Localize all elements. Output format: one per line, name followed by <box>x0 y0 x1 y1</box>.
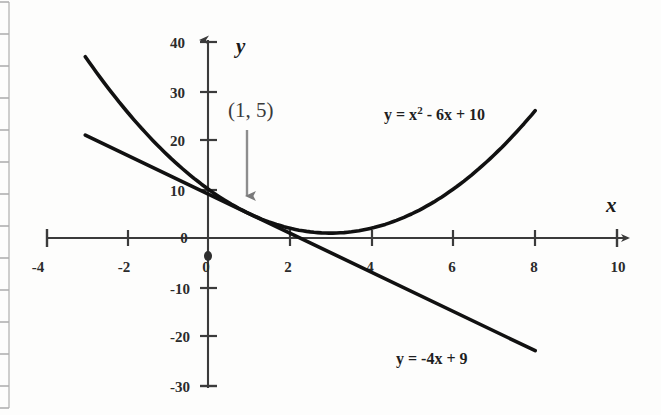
parabola <box>85 57 535 233</box>
parabola-curve-drawn <box>85 59 208 254</box>
line-equation-label: y = -4x + 9 <box>396 350 468 368</box>
x-tick-label-8: 8 <box>530 259 538 275</box>
x-axis-label: x <box>605 193 617 217</box>
y-tick-label-20: 20 <box>170 133 185 149</box>
y-tick-label-30: 30 <box>170 85 185 101</box>
y-tick-label-10: 10 <box>170 183 185 199</box>
x-tick-label-10: 10 <box>611 259 626 275</box>
parabola-eq-main: y = x <box>384 106 417 124</box>
coordinate-plane: y x -4 -2 0 2 4 6 8 10 0 40 30 20 10 -10… <box>0 0 661 415</box>
linear-line <box>85 135 535 351</box>
intersection-point-label: (1, 5) <box>228 98 274 122</box>
y-tick-label--30: -30 <box>170 379 190 395</box>
y-axis-label: y <box>233 34 246 58</box>
parabola-eq-rest: - 6x + 10 <box>423 106 485 123</box>
y-tick-label--20: -20 <box>170 329 190 345</box>
y-axis <box>200 40 217 388</box>
x-tick-label-6: 6 <box>448 259 456 275</box>
intersection-annotation: (1, 5) <box>228 98 274 196</box>
origin-zero-label: 0 <box>180 230 188 246</box>
x-tick-label--2: -2 <box>118 259 131 275</box>
x-tick-label-0: 0 <box>202 259 210 275</box>
parabola-equation-label: y = x2 - 6x + 10 <box>384 104 485 124</box>
graph-figure: y x -4 -2 0 2 4 6 8 10 0 40 30 20 10 -10… <box>0 0 661 415</box>
y-tick-label-40: 40 <box>170 35 185 51</box>
x-tick-label-2: 2 <box>284 259 292 275</box>
x-tick-label--4: -4 <box>32 259 45 275</box>
svg-text:y = x2 - 6x + 10: y = x2 - 6x + 10 <box>384 104 485 124</box>
y-tick-label--10: -10 <box>170 281 190 297</box>
